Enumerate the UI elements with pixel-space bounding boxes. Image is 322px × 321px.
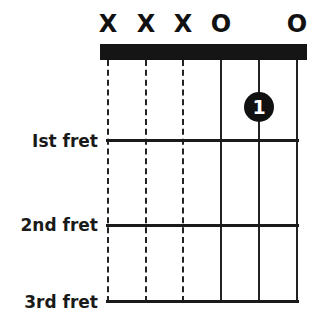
fret-3-line [106,300,299,303]
finger-dot: 1 [244,92,274,122]
string-3-muted-marker: X [171,10,195,38]
fret-1-label: Ist fret [32,131,98,151]
string-1-line [107,60,109,302]
fret-1-line [106,139,299,142]
fret-2-line [106,224,299,227]
string-6-open-marker: O [285,10,309,38]
fret-3-label: 3rd fret [24,292,98,312]
string-2-muted-marker: X [134,10,158,38]
string-4-line [220,60,222,302]
fret-2-label: 2nd fret [21,215,98,235]
string-1-muted-marker: X [96,10,120,38]
string-2-line [145,60,147,302]
string-3-line [182,60,184,302]
string-6-line [296,60,298,302]
nut-bar [100,44,307,60]
string-4-open-marker: O [209,10,233,38]
